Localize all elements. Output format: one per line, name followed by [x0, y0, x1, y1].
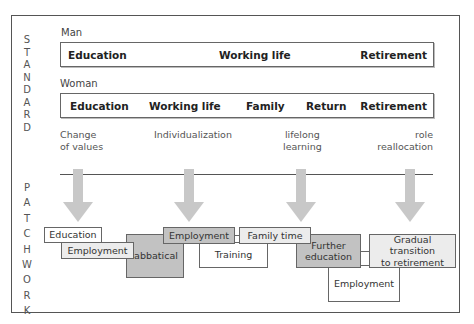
driver-line: Change [60, 129, 103, 141]
driver-line: role [377, 129, 433, 141]
letter: A [20, 97, 34, 110]
box-label: Further [311, 240, 345, 252]
box-label: Employment [334, 278, 394, 290]
letter: N [20, 72, 34, 85]
letter: R [20, 109, 34, 122]
transition-line [60, 174, 433, 175]
man-phase-education: Education [68, 49, 127, 61]
letter: R [20, 288, 34, 303]
woman-label: Woman [60, 78, 98, 89]
driver-role-reallocation: role reallocation [377, 129, 433, 152]
woman-phase-retirement: Retirement [360, 100, 427, 112]
letter: P [20, 180, 34, 195]
driver-individualization: Individualization [154, 129, 232, 141]
woman-phase-family: Family [246, 100, 285, 112]
down-arrow-icon [174, 169, 204, 222]
man-lifecycle-bar: Education Working life Retirement [60, 42, 434, 67]
letter: W [20, 257, 34, 272]
box-label: Employment [67, 245, 127, 257]
driver-change-of-values: Change of values [60, 129, 103, 152]
box-label: education [305, 251, 352, 263]
box-gradual-transition: Gradual transition to retirement [369, 234, 456, 268]
man-label: Man [61, 27, 82, 38]
standard-side-label: S T A N D A R D [20, 34, 34, 134]
driver-line: learning [283, 141, 322, 153]
box-label: Sabbatical [128, 250, 178, 262]
box-label: Gradual transition [370, 234, 455, 257]
letter: T [20, 211, 34, 226]
letter: H [20, 242, 34, 257]
letter: C [20, 226, 34, 241]
man-phase-retirement: Retirement [360, 49, 427, 61]
woman-lifecycle-bar: Education Working life Family Return Ret… [60, 93, 434, 118]
patchwork-side-label: P A T C H W O R K [20, 180, 34, 319]
box-family-time: Family time [239, 227, 311, 244]
driver-line: Individualization [154, 129, 232, 141]
man-phase-working-life: Working life [219, 49, 291, 61]
box-label: Employment [169, 230, 229, 242]
box-label: Education [49, 229, 96, 241]
letter: A [20, 195, 34, 210]
driver-lifelong-learning: lifelong learning [283, 129, 322, 152]
woman-phase-return: Return [306, 100, 346, 112]
box-employment-2: Employment [163, 227, 235, 244]
box-label: Family time [247, 230, 302, 242]
letter: O [20, 272, 34, 287]
down-arrow-icon [286, 169, 316, 222]
box-label: to retirement [381, 257, 444, 269]
letter: K [20, 303, 34, 318]
box-education: Education [44, 227, 102, 243]
woman-phase-working-life: Working life [149, 100, 221, 112]
box-label: Training [215, 249, 253, 261]
box-employment-1: Employment [61, 242, 134, 259]
letter: T [20, 47, 34, 60]
down-arrow-icon [395, 169, 425, 222]
letter: D [20, 122, 34, 135]
driver-line: of values [60, 141, 103, 153]
down-arrow-icon [63, 169, 93, 222]
letter: S [20, 34, 34, 47]
driver-line: reallocation [377, 141, 433, 153]
letter: A [20, 59, 34, 72]
driver-line: lifelong [283, 129, 322, 141]
woman-phase-education: Education [70, 100, 129, 112]
box-employment-3: Employment [328, 265, 400, 302]
box-training: Training [199, 242, 268, 268]
letter: D [20, 84, 34, 97]
